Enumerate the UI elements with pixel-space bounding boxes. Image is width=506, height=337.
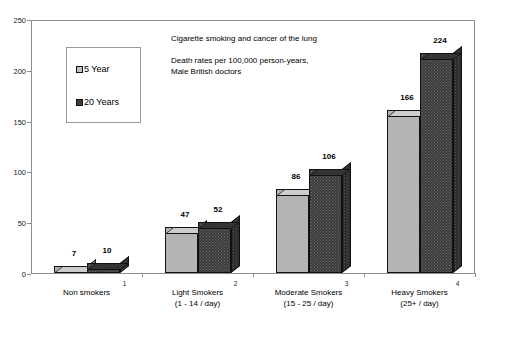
y-axis-tick-label: 250 [13,16,26,25]
chart-subtitle-line-1: Death rates per 100,000 person-years, [171,55,317,66]
legend-swatch-icon-5-year [76,66,83,73]
y-axis-tick-label: 150 [13,117,26,126]
bar-20-years-group-3 [309,169,342,273]
category-label-1: Non smokers [63,288,110,299]
category-label-sub: (1 - 14 / day) [172,299,223,310]
category-label-main: Heavy Smokers [391,288,447,299]
y-axis: 050100150200250 [0,20,31,274]
chart-subtitle-line-2: Male British doctors [171,66,317,77]
y-axis-tick-label: 100 [13,168,26,177]
legend-swatch-icon-20-years [76,99,83,106]
x-axis-group-divider [475,273,476,277]
value-label-20-years-group-4: 224 [433,36,446,45]
category-label-main: Light Smokers [172,288,223,299]
bar-front-face [198,222,231,273]
chart-legend: 5 Year 20 Years [66,47,141,123]
y-axis-tick-mark [27,274,31,275]
bar-front-face [309,169,342,273]
value-label-5-year-group-1: 7 [72,249,76,258]
category-label-4: Heavy Smokers(25+ / day) [391,288,447,309]
x-axis-tick-number-2: 2 [234,280,238,287]
category-label-main: Moderate Smokers [275,288,343,299]
x-axis-group-divider [253,273,254,277]
bar-front-face [387,110,420,273]
bar-front-face [276,189,309,273]
x-axis-group-divider [364,273,365,277]
value-label-5-year-group-4: 166 [400,93,413,102]
lung-cancer-bar-chart: 050100150200250 1234 Non smokersLight Sm… [0,0,506,337]
value-label-5-year-group-2: 47 [181,210,190,219]
x-axis-tick-number-3: 3 [345,280,349,287]
value-label-20-years-group-2: 52 [214,205,223,214]
category-label-3: Moderate Smokers(15 - 25 / day) [275,288,343,309]
value-label-5-year-group-3: 86 [292,172,301,181]
bar-front-face [420,53,453,273]
legend-label-20-years: 20 Years [84,97,119,107]
bar-5-year-group-2 [165,227,198,273]
bar-20-years-group-2 [198,222,231,273]
x-axis-tick-number-1: 1 [123,280,127,287]
bar-20-years-group-1 [87,263,120,273]
bar-5-year-group-4 [387,110,420,273]
bar-5-year-group-3 [276,189,309,273]
value-label-20-years-group-3: 106 [322,152,335,161]
legend-item-5-year: 5 Year [76,64,110,74]
x-axis-group-divider [142,273,143,277]
y-axis-tick-label: 0 [22,270,26,279]
bar-5-year-group-1 [54,266,87,273]
category-label-2: Light Smokers(1 - 14 / day) [172,288,223,309]
bar-20-years-group-4 [420,53,453,273]
bar-side-face [453,46,462,273]
category-label-main: Non smokers [63,288,110,299]
y-axis-tick-label: 50 [18,219,26,228]
bar-side-face [342,162,351,273]
value-label-20-years-group-1: 10 [103,246,112,255]
chart-title: Cigarette smoking and cancer of the lung [171,33,317,44]
legend-label-5-year: 5 Year [84,64,110,74]
chart-annotations: Cigarette smoking and cancer of the lung… [171,33,317,77]
category-label-sub: (15 - 25 / day) [275,299,343,310]
y-axis-tick-label: 200 [13,66,26,75]
legend-item-20-years: 20 Years [76,97,119,107]
category-label-sub: (25+ / day) [391,299,447,310]
x-axis-tick-number-4: 4 [456,280,460,287]
